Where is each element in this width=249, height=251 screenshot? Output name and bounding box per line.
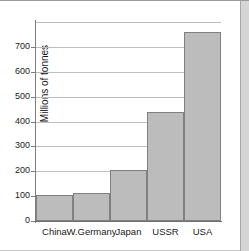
bar <box>73 193 110 221</box>
x-axis-line <box>35 221 222 222</box>
y-axis-tick-label: 300 <box>0 141 30 150</box>
y-axis-tick-label: 400 <box>0 117 30 126</box>
y-axis-tick-label-text: 300 <box>2 141 30 150</box>
bar <box>110 170 147 221</box>
bar-chart: Millions of tonnes 010020030040050060070… <box>0 0 249 251</box>
y-axis-tick-label: 600 <box>0 67 30 76</box>
y-axis-tick-label: 500 <box>0 92 30 101</box>
y-axis-tick-label: 700 <box>0 42 30 51</box>
y-axis-tick-label: 100 <box>0 191 30 200</box>
y-axis-tick-label-text: 600 <box>2 67 30 76</box>
y-axis-tick-label: 0 <box>0 216 30 225</box>
bar <box>147 112 184 221</box>
y-axis-tick-label-text: 500 <box>2 92 30 101</box>
y-axis-tick-label-text: 700 <box>2 42 30 51</box>
chart-screenshot: Millions of tonnes 010020030040050060070… <box>0 0 249 251</box>
x-axis-tick-label: USA <box>163 226 243 237</box>
y-axis-tick-label-text: 200 <box>2 166 30 175</box>
y-axis-tick-label-text: 100 <box>2 191 30 200</box>
y-axis-tick-label-text: 0 <box>2 216 30 225</box>
bar <box>36 195 73 221</box>
plot-area <box>36 22 221 221</box>
y-axis-tick-label-text: 400 <box>2 117 30 126</box>
y-axis-tick-label: 200 <box>0 166 30 175</box>
bar <box>184 32 221 221</box>
